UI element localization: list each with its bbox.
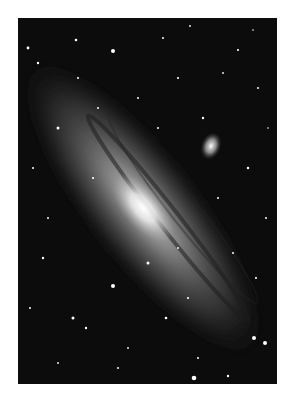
galaxy-photo (18, 18, 277, 384)
galaxy-illustration (18, 18, 277, 384)
satellite-galaxy (197, 129, 225, 162)
